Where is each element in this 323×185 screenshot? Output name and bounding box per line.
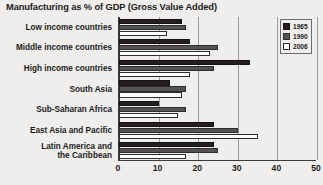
legend-swatch-icon	[283, 23, 290, 30]
category-label: Latin America and the Caribbean	[41, 142, 112, 160]
bar-group	[119, 120, 316, 141]
category-label: Middle income countries	[16, 43, 112, 52]
bar	[119, 66, 214, 71]
bar	[119, 128, 238, 133]
bar	[119, 80, 170, 85]
category-label: Sub-Saharan Africa	[36, 105, 112, 114]
bar-group	[119, 140, 316, 161]
legend-swatch-icon	[283, 33, 290, 40]
bar	[119, 154, 186, 159]
legend-item[interactable]: 1990	[283, 32, 308, 41]
bar	[119, 107, 186, 112]
bar	[119, 31, 167, 36]
category-label: High income countries	[24, 64, 112, 73]
x-tick-label: 50	[311, 163, 321, 173]
category-label: South Asia	[70, 85, 112, 94]
bar-group	[119, 79, 316, 100]
x-tick-label: 30	[232, 163, 242, 173]
category-axis-labels: Low income countriesMiddle income countr…	[0, 17, 115, 161]
chart-legend: 196519902006	[280, 19, 312, 54]
x-tick-label: 20	[192, 163, 202, 173]
legend-label: 1990	[293, 33, 308, 40]
x-axis-tick-labels: 01020304050	[118, 163, 316, 177]
bar	[119, 92, 182, 97]
category-label: Low income countries	[26, 23, 112, 32]
bar	[119, 101, 159, 106]
bar	[119, 148, 218, 153]
bar-group	[119, 58, 316, 79]
bar-group	[119, 99, 316, 120]
category-label: East Asia and Pacific	[30, 126, 112, 135]
legend-item[interactable]: 2006	[283, 42, 308, 51]
bar	[119, 60, 250, 65]
bar	[119, 51, 210, 56]
bar	[119, 86, 186, 91]
bar	[119, 25, 186, 30]
x-tick-label: 10	[153, 163, 163, 173]
chart-container: Manufacturing as % of GDP (Gross Value A…	[0, 0, 323, 185]
legend-swatch-icon	[283, 43, 290, 50]
bar	[119, 134, 258, 139]
bar	[119, 39, 190, 44]
bar	[119, 19, 182, 24]
chart-title: Manufacturing as % of GDP (Gross Value A…	[6, 2, 217, 12]
bar	[119, 142, 214, 147]
x-tick-label: 0	[116, 163, 121, 173]
gridline-50	[317, 17, 318, 160]
legend-label: 1965	[293, 23, 308, 30]
x-tick-label: 40	[272, 163, 282, 173]
legend-item[interactable]: 1965	[283, 22, 308, 31]
bar	[119, 45, 218, 50]
bar	[119, 72, 190, 77]
legend-label: 2006	[293, 43, 308, 50]
bar	[119, 113, 178, 118]
bar	[119, 122, 214, 127]
